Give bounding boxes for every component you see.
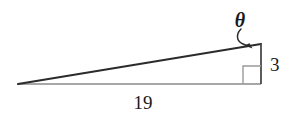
hypotenuse-line: [18, 44, 261, 84]
right-angle-marker: [243, 66, 261, 84]
opposite-side-label: 3: [270, 54, 280, 75]
adjacent-side-label: 19: [134, 92, 153, 113]
angle-label: θ: [235, 9, 246, 31]
triangle-figure: θ 3 19: [0, 0, 282, 124]
